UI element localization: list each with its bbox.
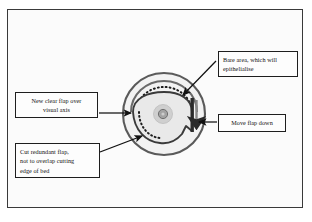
figure-root: Bare area, which will epithelialise New … bbox=[0, 0, 312, 222]
callout-cut-redundant-flap-line-2: not to overlap cutting bbox=[20, 156, 95, 165]
callout-new-clear-flap-line-1: New clear flap over bbox=[20, 96, 93, 105]
callout-new-clear-flap-line-2: visual axis bbox=[20, 105, 93, 114]
callout-new-clear-flap: New clear flap over visual axis bbox=[15, 92, 98, 118]
callout-move-flap-down: Move flap down bbox=[218, 114, 286, 132]
callout-cut-redundant-flap-line-1: Cut redundant flap, bbox=[20, 147, 95, 156]
callout-bare-area-line-1: Bare area, which will bbox=[223, 55, 293, 64]
callout-cut-redundant-flap: Cut redundant flap, not to overlap cutti… bbox=[15, 143, 100, 178]
callout-bare-area-line-2: epithelialise bbox=[223, 64, 293, 73]
callout-move-flap-down-line-1: Move flap down bbox=[231, 118, 273, 127]
callout-bare-area: Bare area, which will epithelialise bbox=[218, 51, 298, 77]
callout-cut-redundant-flap-line-3: edge of bed bbox=[20, 166, 95, 175]
